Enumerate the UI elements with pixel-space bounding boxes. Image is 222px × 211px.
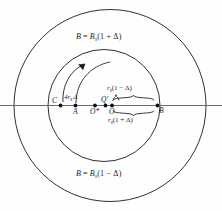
outer-field-rhs-sub: s: [95, 36, 97, 42]
point-label-O: O: [109, 108, 114, 116]
inner-field-rhs-sub: s: [95, 173, 97, 179]
gap-dim-sub: s: [70, 96, 72, 102]
brace-upper-sub: s: [110, 87, 112, 93]
gap-dim-tail: Δ: [73, 93, 77, 101]
outer-field-rhs-paren: (1 + Δ): [97, 32, 121, 41]
brace-lower-sub: s: [111, 119, 113, 125]
inner-field-lhs: B: [76, 169, 81, 178]
brace-lower-label: rs(1 + Δ): [108, 117, 133, 124]
outer-field-equation: B=Bs(1 + Δ): [76, 33, 122, 41]
point-label-B: B: [159, 107, 164, 115]
brace-upper-label: rs(1 − Δ): [107, 85, 132, 92]
brace-upper-tail: (1 − Δ): [112, 84, 132, 92]
point-C: [59, 104, 63, 108]
outer-field-equals: =: [83, 32, 88, 41]
inner-field-equation: B=Bs(1 − Δ): [76, 170, 122, 178]
brace-lower-tail: (1 + Δ): [113, 116, 133, 124]
point-label-C: C: [52, 97, 57, 105]
point-label-Q-prime: Q′: [101, 96, 108, 104]
outer-field-lhs: B: [76, 32, 81, 41]
gap-dimension-label: 4rsΔ: [64, 94, 77, 101]
brace-upper: [113, 95, 154, 101]
inner-field-rhs-paren: (1 − Δ): [97, 169, 121, 178]
point-Q-prime: [104, 104, 108, 108]
brace-lower: [113, 111, 154, 116]
point-label-A: A: [73, 108, 78, 116]
physics-figure: B=Bs(1 + Δ) B=Bs(1 − Δ) 4rsΔ rs(1 − Δ) r…: [0, 0, 222, 211]
point-label-O-star: O*: [90, 108, 99, 116]
inner-field-equals: =: [83, 169, 88, 178]
